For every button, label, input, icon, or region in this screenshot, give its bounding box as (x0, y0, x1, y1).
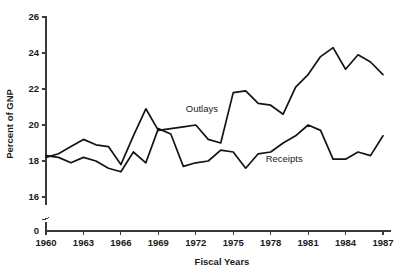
y-tick-label: 26 (28, 11, 39, 22)
x-tick-label: 1975 (223, 237, 245, 248)
x-tick-label: 1978 (260, 237, 281, 248)
x-tick-label: 1963 (73, 237, 94, 248)
x-tick-label: 1972 (185, 237, 206, 248)
y-tick-label: 22 (28, 83, 39, 94)
series-line-receipts (46, 125, 383, 172)
x-tick-label: 1966 (110, 237, 131, 248)
x-tick-label: 1987 (372, 237, 393, 248)
y-tick-label: 16 (28, 191, 39, 202)
budget-line-chart: 1618202224260 19601963196619691972197519… (0, 0, 401, 271)
x-tick-label: 1960 (35, 237, 56, 248)
x-axis-tick-labels: 1960196319661969197219751978198119841987 (35, 237, 393, 248)
y-axis-origin-label: 0 (34, 225, 39, 236)
x-tick-label: 1969 (148, 237, 169, 248)
y-tick-label: 20 (28, 119, 39, 130)
chart-figure: 1618202224260 19601963196619691972197519… (0, 0, 401, 271)
chart-axes (43, 16, 392, 231)
x-axis-title: Fiscal Years (195, 256, 250, 267)
chart-tickmarks (42, 17, 383, 235)
y-axis-tick-labels: 1618202224260 (28, 11, 39, 236)
y-tick-label: 24 (28, 47, 39, 58)
y-tick-label: 18 (28, 155, 39, 166)
series-label-outlays: Outlays (186, 103, 218, 114)
x-tick-label: 1984 (335, 237, 357, 248)
y-axis-title: Percent of GNP (4, 88, 15, 158)
series-label-receipts: Receipts (266, 153, 303, 164)
x-tick-label: 1981 (298, 237, 320, 248)
